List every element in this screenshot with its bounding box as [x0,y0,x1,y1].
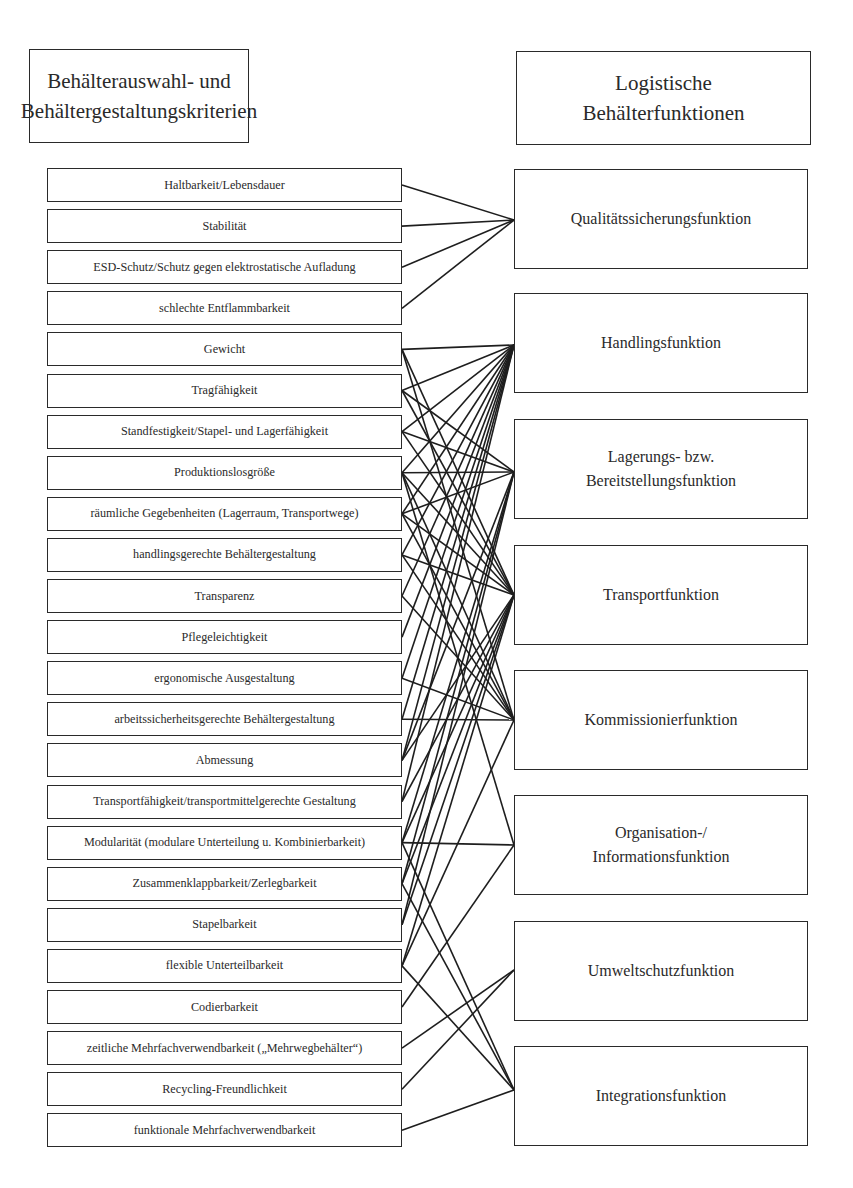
connection-line [402,843,514,1090]
connection-line [402,185,514,220]
criterion-box: Gewicht [47,332,402,366]
connection-line [402,345,514,555]
function-box: Organisation-/ Informationsfunktion [514,795,808,895]
criterion-box: Abmessung [47,743,402,777]
criterion-box: Transportfähigkeit/transportmittelgerech… [47,785,402,819]
function-box: Umweltschutzfunktion [514,921,808,1021]
criterion-box: Transparenz [47,579,402,613]
connection-line [402,220,514,308]
connection-line [402,845,514,1007]
function-box: Qualitätssicherungsfunktion [514,169,808,269]
connection-line [402,432,514,472]
criterion-box: ergonomische Ausgestaltung [47,661,402,695]
criterion-box: funktionale Mehrfachverwendbarkeit [47,1113,402,1147]
criterion-box: Recycling-Freundlichkeit [47,1072,402,1106]
criterion-box: räumliche Gegebenheiten (Lagerraum, Tran… [47,497,402,531]
criterion-box: ESD-Schutz/Schutz gegen elektrostatische… [47,250,402,284]
criterion-box: schlechte Entflammbarkeit [47,291,402,325]
criterion-box: Stabilität [47,209,402,243]
criterion-box: Pflegeleichtigkeit [47,620,402,654]
connection-line [402,220,514,226]
function-box: Lagerungs- bzw. Bereitstellungsfunktion [514,419,808,519]
function-box: Transportfunktion [514,545,808,645]
cut-off-caption [30,1180,810,1188]
criterion-box: Codierbarkeit [47,990,402,1024]
connection-line [402,1090,514,1130]
criterion-box: Tragfähigkeit [47,374,402,408]
connection-line [402,345,514,802]
criterion-box: Haltbarkeit/Lebensdauer [47,168,402,202]
function-box: Kommissionierfunktion [514,670,808,770]
criterion-box: Produktionslosgröße [47,456,402,490]
connection-line [402,345,514,514]
function-box: Integrationsfunktion [514,1046,808,1146]
connection-line [402,345,514,349]
connection-line [402,595,514,966]
criterion-box: Standfestigkeit/Stapel- und Lagerfähigke… [47,415,402,449]
criterion-box: handlingsgerechte Behältergestaltung [47,538,402,572]
criterion-box: Stapelbarkeit [47,908,402,942]
criterion-box: zeitliche Mehrfachverwendbarkeit („Mehrw… [47,1031,402,1065]
criterion-box: flexible Unterteilbarkeit [47,949,402,983]
connection-line [402,595,514,925]
criterion-box: Zusammenklappbarkeit/Zerlegbarkeit [47,867,402,901]
criterion-box: Modularität (modulare Unterteilung u. Ko… [47,826,402,860]
function-box: Handlingsfunktion [514,293,808,393]
connection-line [402,220,514,267]
criterion-box: arbeitssicherheitsgerechte Behältergesta… [47,702,402,736]
